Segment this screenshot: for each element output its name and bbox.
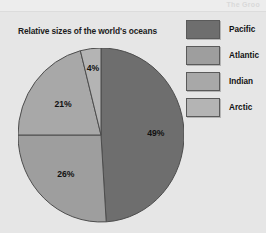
legend-swatch-indian — [186, 72, 220, 91]
pie-chart-svg: 49%26%21%4% — [18, 48, 184, 223]
legend-item-indian[interactable]: Indian — [186, 69, 262, 94]
legend: Pacific Atlantic Indian Arctic — [186, 17, 262, 121]
figure-canvas: The Groo Relative sizes of the world's o… — [0, 0, 266, 233]
legend-swatch-atlantic — [186, 46, 220, 65]
legend-item-pacific[interactable]: Pacific — [186, 17, 262, 42]
legend-item-atlantic[interactable]: Atlantic — [186, 43, 262, 68]
top-band-text: The Groo — [226, 0, 260, 10]
legend-label-atlantic: Atlantic — [229, 51, 259, 60]
pie-slice-pacific[interactable] — [101, 48, 184, 222]
pie-label-indian: 21% — [54, 99, 72, 109]
legend-swatch-arctic — [186, 98, 220, 117]
top-band: The Groo — [0, 0, 266, 12]
pie-label-pacific: 49% — [147, 128, 165, 138]
pie-label-atlantic: 26% — [57, 169, 75, 179]
pie-chart: 49%26%21%4% — [18, 48, 184, 223]
legend-label-pacific: Pacific — [229, 25, 255, 34]
legend-label-arctic: Arctic — [229, 103, 252, 112]
page-title: Relative sizes of the world's oceans — [18, 26, 157, 36]
pie-label-arctic: 4% — [87, 63, 100, 73]
legend-item-arctic[interactable]: Arctic — [186, 95, 262, 120]
legend-swatch-pacific — [186, 20, 220, 39]
legend-label-indian: Indian — [229, 77, 253, 86]
